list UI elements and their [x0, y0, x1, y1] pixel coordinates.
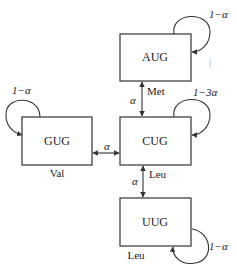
node-label-uug: UUG — [142, 215, 168, 229]
amino-acid-val: Val — [50, 167, 65, 179]
edge-label-gug-cug: α — [104, 140, 110, 152]
node-label-aug: AUG — [142, 50, 168, 64]
self-loop-label-aug: 1−α — [209, 8, 228, 20]
codon-transition-diagram: AUG GUG CUG UUG Met Val Leu Leu 1−α 1−α … — [0, 0, 237, 272]
tick-mark: | — [209, 56, 211, 68]
self-loop-label-cug: 1−3α — [193, 86, 217, 98]
node-label-gug: GUG — [44, 134, 70, 148]
edge-label-cug-uug: α — [132, 175, 138, 187]
amino-acid-leu-cug: Leu — [149, 168, 167, 180]
edge-label-aug-cug: α — [130, 94, 136, 106]
amino-acid-leu-uug: Leu — [127, 249, 145, 261]
self-loop-label-gug: 1−α — [12, 84, 31, 96]
node-label-cug: CUG — [142, 134, 168, 148]
amino-acid-met: Met — [147, 85, 165, 97]
self-loop-label-uug: 1−α — [209, 240, 228, 252]
